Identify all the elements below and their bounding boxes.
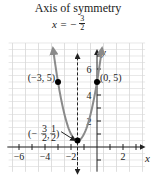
x-tick-label: −4: [40, 151, 51, 162]
point-label: (0, 5): [100, 72, 122, 84]
curve-arrow-right: [101, 51, 102, 57]
vertex-label-paren: ): [56, 128, 59, 140]
x-axis-label: x: [144, 152, 150, 164]
y-tick-label: 6: [87, 64, 92, 75]
x-tick-label: −6: [14, 151, 25, 162]
axes: xy−6−4−22246: [7, 46, 150, 172]
x-tick-label: −2: [66, 151, 77, 162]
point-marker: [75, 138, 81, 144]
vertex-label: (−32,12): [28, 123, 59, 143]
parabola-graph: xy−6−4−22246 (−3, 5)(0, 5)(−32,12): [0, 0, 156, 178]
curve-arrow-left: [53, 51, 54, 57]
y-tick-label: 4: [87, 90, 92, 101]
vertex-label-comma: ,: [47, 129, 50, 140]
x-tick-label: 2: [121, 151, 126, 162]
point-marker: [55, 79, 61, 85]
vertex-label-paren: (−: [28, 128, 37, 140]
point-label: (−3, 5): [28, 72, 55, 84]
